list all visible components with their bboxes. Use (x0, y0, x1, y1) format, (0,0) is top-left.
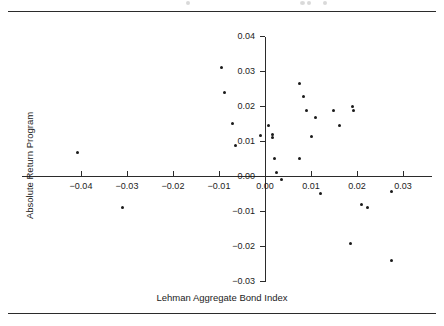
x-tick-label: 0.03 (394, 181, 412, 191)
data-point (234, 144, 237, 147)
data-point (310, 135, 313, 138)
data-point (360, 203, 363, 206)
y-tick (260, 211, 265, 212)
data-point (338, 124, 341, 127)
data-point (267, 124, 270, 127)
y-tick (260, 141, 265, 142)
y-tick-label: −0.01 (219, 206, 255, 216)
data-point (302, 95, 305, 98)
x-tick (81, 171, 82, 176)
y-tick (260, 246, 265, 247)
y-tick (260, 71, 265, 72)
data-point (273, 157, 276, 160)
data-point (76, 151, 79, 154)
x-tick-label: 0.01 (302, 181, 320, 191)
y-tick-label: 0.01 (219, 136, 255, 146)
data-point (271, 136, 274, 139)
data-point (231, 122, 234, 125)
x-tick (357, 171, 358, 176)
data-point (352, 109, 355, 112)
data-point (298, 157, 301, 160)
x-tick (403, 171, 404, 176)
data-point (390, 259, 393, 262)
y-tick-label: 0.00 (219, 171, 255, 181)
x-tick-label: −0.02 (162, 181, 185, 191)
x-tick-label: 0.02 (348, 181, 366, 191)
y-tick-label: −0.03 (219, 276, 255, 286)
data-point (280, 178, 283, 181)
data-point (390, 190, 393, 193)
data-point (259, 134, 262, 137)
y-tick-label: 0.02 (219, 101, 255, 111)
y-axis-line (265, 37, 266, 282)
scatter-plot: −0.04−0.03−0.02−0.010.000.010.020.03 0.0… (0, 0, 444, 326)
data-point (351, 105, 354, 108)
data-point (332, 109, 335, 112)
x-tick-label: −0.04 (70, 181, 93, 191)
data-point (305, 109, 308, 112)
data-point (275, 171, 278, 174)
data-point (319, 192, 322, 195)
y-tick (260, 281, 265, 282)
y-tick (260, 106, 265, 107)
y-axis-title: Absolute Return Program (24, 71, 35, 261)
y-tick-label: 0.04 (219, 31, 255, 41)
x-tick (265, 171, 266, 176)
data-point (366, 206, 369, 209)
x-tick-label: 0.00 (256, 181, 274, 191)
y-tick-label: 0.03 (219, 66, 255, 76)
y-tick (260, 36, 265, 37)
x-tick-label: −0.01 (208, 181, 231, 191)
data-point (271, 133, 274, 136)
data-point (121, 206, 124, 209)
x-tick-label: −0.03 (116, 181, 139, 191)
x-tick (311, 171, 312, 176)
figure-page: −0.04−0.03−0.02−0.010.000.010.020.03 0.0… (0, 0, 444, 326)
x-tick (173, 171, 174, 176)
data-point (298, 82, 301, 85)
data-point (314, 116, 317, 119)
y-tick-label: −0.02 (219, 241, 255, 251)
data-point (349, 242, 352, 245)
x-axis-title: Lehman Aggregate Bond Index (0, 292, 444, 303)
x-tick (127, 171, 128, 176)
data-point (223, 91, 226, 94)
